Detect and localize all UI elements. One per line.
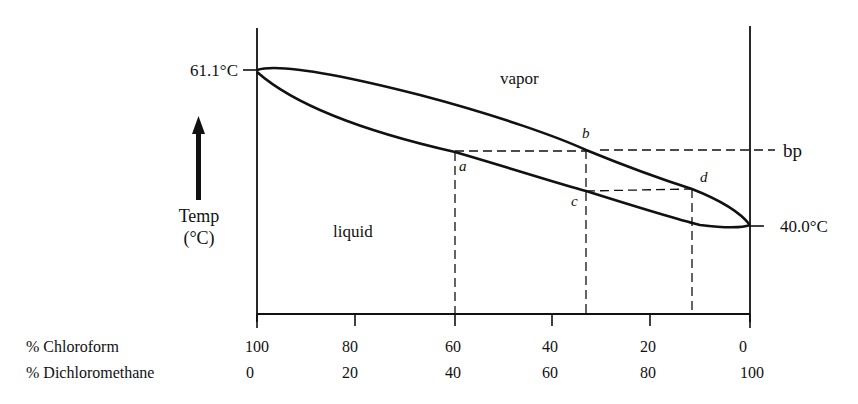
point-d: d bbox=[700, 169, 708, 185]
svg-text:60: 60 bbox=[445, 338, 461, 355]
svg-text:40: 40 bbox=[445, 364, 461, 381]
xlabel-chloroform: % Chloroform bbox=[26, 338, 119, 355]
point-c: c bbox=[571, 193, 578, 209]
svg-text:20: 20 bbox=[640, 338, 656, 355]
ylabel-temp: Temp bbox=[179, 206, 220, 226]
ylabel-unit: (°C) bbox=[183, 228, 214, 249]
region-liquid: liquid bbox=[333, 222, 373, 241]
point-b: b bbox=[582, 125, 590, 141]
label-bp: bp bbox=[783, 140, 802, 161]
svg-text:0: 0 bbox=[739, 338, 747, 355]
svg-text:80: 80 bbox=[342, 338, 358, 355]
x-tick-labels-chloroform: 100 80 60 40 20 0 bbox=[245, 338, 747, 355]
svg-text:20: 20 bbox=[342, 364, 358, 381]
region-vapor: vapor bbox=[500, 69, 539, 88]
temp-arrow-icon bbox=[192, 116, 205, 200]
svg-text:80: 80 bbox=[640, 364, 656, 381]
phase-diagram: 61.1°C 40.0°C bp vapor liquid Temp (°C) … bbox=[0, 0, 858, 404]
x-tick-labels-dichloromethane: 0 20 40 60 80 100 bbox=[246, 364, 764, 381]
vapor-curve bbox=[257, 68, 750, 225]
svg-text:100: 100 bbox=[740, 364, 764, 381]
x-ticks bbox=[257, 314, 750, 328]
point-a: a bbox=[459, 158, 467, 174]
label-61-1: 61.1°C bbox=[190, 61, 238, 80]
tie-lines bbox=[455, 150, 775, 314]
svg-text:100: 100 bbox=[245, 338, 269, 355]
xlabel-dichloromethane: % Dichloromethane bbox=[26, 364, 154, 381]
label-40-0: 40.0°C bbox=[780, 217, 828, 236]
svg-text:60: 60 bbox=[542, 364, 558, 381]
svg-text:40: 40 bbox=[542, 338, 558, 355]
svg-text:0: 0 bbox=[246, 364, 254, 381]
